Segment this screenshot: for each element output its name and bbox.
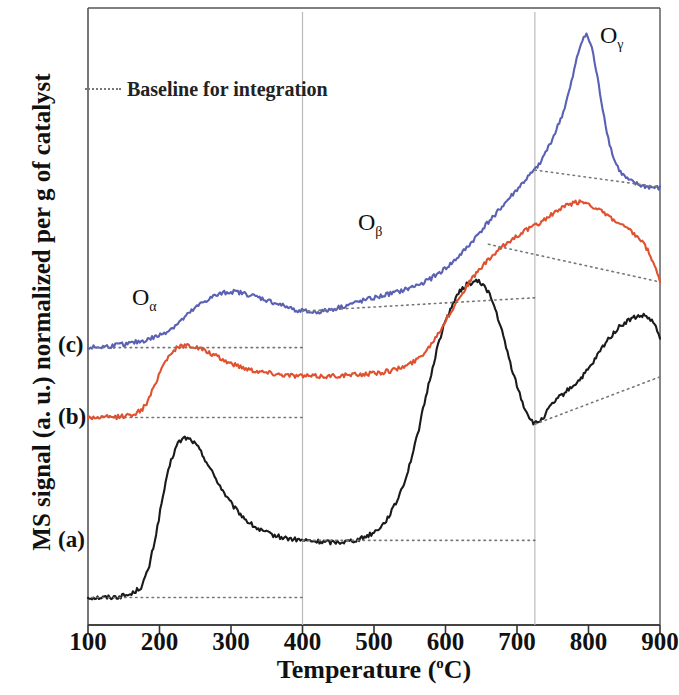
x-axis-label-unit: C): [444, 655, 471, 684]
x-tick-label-700: 700: [498, 628, 536, 656]
x-tick-label-400: 400: [284, 628, 322, 656]
legend-baseline-dash-icon: [85, 88, 121, 90]
x-tick-label-800: 800: [570, 628, 608, 656]
degree-symbol: o: [436, 655, 444, 671]
curve-label-c: (c): [58, 332, 84, 358]
x-tick-label-900: 900: [641, 628, 679, 656]
annotation-o-alpha: Oα: [132, 284, 157, 315]
x-tick-label-500: 500: [355, 628, 393, 656]
annotation-subscript: α: [149, 299, 156, 314]
annotation-base: O: [600, 22, 617, 48]
y-axis-label: MS signal (a. u.) normalized per g of ca…: [28, 2, 56, 622]
annotation-base: O: [358, 209, 375, 235]
annotation-subscript: β: [375, 224, 382, 239]
x-tick-label-200: 200: [141, 628, 179, 656]
x-axis-label-text: Temperature (: [277, 655, 437, 684]
annotation-subscript: γ: [617, 37, 623, 52]
x-tick-label-600: 600: [427, 628, 465, 656]
curve-label-b: (b): [58, 404, 86, 430]
baseline-c-mid: [303, 298, 535, 311]
legend-baseline-label: Baseline for integration: [127, 78, 328, 101]
x-axis-label: Temperature (oC): [88, 655, 660, 685]
curve-label-a: (a): [58, 527, 85, 553]
x-tick-label-100: 100: [69, 628, 107, 656]
annotation-o-gamma: Oγ: [600, 22, 624, 53]
x-tick-label-300: 300: [212, 628, 250, 656]
annotation-o-beta: Oβ: [358, 209, 382, 240]
annotation-base: O: [132, 284, 149, 310]
baseline-a-high: [535, 377, 660, 424]
baseline-b-high: [488, 244, 660, 282]
baseline-c-high: [535, 170, 660, 187]
